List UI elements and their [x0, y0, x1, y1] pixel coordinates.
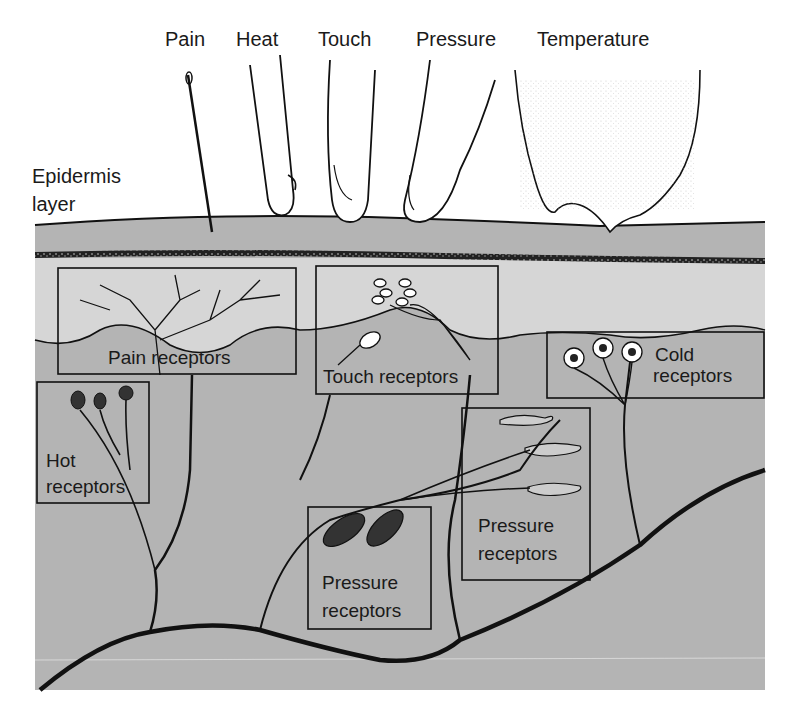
finger-icon [328, 60, 375, 222]
pressure-deep-line2: receptors [322, 597, 401, 625]
finger-press-icon [404, 60, 495, 222]
hot-probe-icon [250, 55, 296, 215]
pressure-mid-line1: Pressure [478, 512, 557, 540]
hot-label-line1: Hot [46, 448, 125, 474]
epidermis-layer-label: Epidermis layer [32, 162, 121, 218]
stimulus-label-temperature: Temperature [537, 28, 649, 50]
needle-icon [186, 72, 212, 232]
pain-receptors-label: Pain receptors [108, 347, 231, 368]
touch-receptors-label: Touch receptors [323, 366, 458, 387]
cold-label-line1: Cold [655, 344, 732, 365]
epidermis-label-line2: layer [32, 190, 121, 218]
cold-receptors-label: Cold receptors [655, 344, 732, 387]
stimulus-label-heat: Heat [236, 28, 278, 50]
stimulus-label-pressure: Pressure [416, 28, 496, 50]
stimulus-label-touch: Touch [318, 28, 371, 50]
ice-cube-icon [515, 70, 700, 232]
hot-label-line2: receptors [46, 474, 125, 500]
pressure-mid-receptors-label: Pressure receptors [478, 512, 557, 568]
epidermis-label-line1: Epidermis [32, 162, 121, 190]
cold-label-line2: receptors [653, 365, 732, 386]
hot-receptors-label: Hot receptors [46, 448, 125, 500]
pressure-deep-receptors-label: Pressure receptors [322, 569, 401, 625]
pressure-mid-line2: receptors [478, 540, 557, 568]
stimulus-label-pain: Pain [165, 28, 205, 50]
pressure-deep-line1: Pressure [322, 569, 401, 597]
